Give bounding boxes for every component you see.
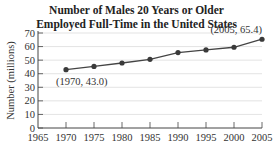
- data-point: [63, 67, 68, 72]
- x-tick-label: 1975: [84, 132, 105, 143]
- y-tick-label: 20: [25, 95, 36, 106]
- data-point: [259, 37, 264, 42]
- data-point: [175, 50, 180, 55]
- x-tick-label: 2000: [224, 132, 245, 143]
- annotation-start: (1970, 43.0): [56, 76, 108, 88]
- y-tick-label: 50: [25, 55, 36, 66]
- y-tick-label: 40: [25, 68, 36, 79]
- x-tick-label: 1990: [168, 132, 189, 143]
- annotation-end: (2005, 65.4): [210, 24, 262, 36]
- y-tick-label: 30: [25, 82, 36, 93]
- x-tick-label: 1985: [140, 132, 161, 143]
- line-chart: 0102030405060701965197019751980198519901…: [0, 0, 273, 159]
- x-tick-label: 1980: [112, 132, 133, 143]
- data-point: [147, 57, 152, 62]
- data-point: [231, 45, 236, 50]
- data-point: [91, 64, 96, 69]
- x-tick-label: 1995: [196, 132, 217, 143]
- x-tick-label: 1965: [28, 132, 49, 143]
- y-axis-label: Number (millions): [5, 41, 17, 120]
- x-tick-label: 2005: [252, 132, 273, 143]
- x-tick-label: 1970: [56, 132, 77, 143]
- y-tick-label: 10: [25, 109, 36, 120]
- y-tick-label: 60: [25, 41, 36, 52]
- y-tick-label: 70: [25, 28, 36, 39]
- data-point: [203, 47, 208, 52]
- data-point: [119, 60, 124, 65]
